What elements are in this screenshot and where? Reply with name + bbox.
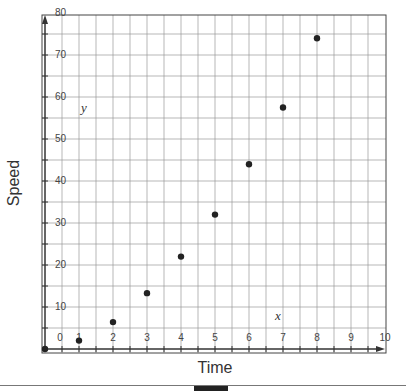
scatter-chart: 0123456789101020304050607080 [0,0,406,391]
data-point [178,253,184,259]
y-tick-label: 40 [55,175,67,186]
x-tick-label: 9 [348,332,354,343]
x-tick-label: 4 [178,332,184,343]
x-tick-label: 5 [212,332,218,343]
data-point [314,35,320,41]
data-point [76,337,82,343]
tick-labels: 0123456789101020304050607080 [55,7,391,343]
y-tick-label: 20 [55,259,67,270]
y-tick-label: 30 [55,217,67,228]
x-tick-label: 3 [144,332,150,343]
y-tick-label: 10 [55,301,67,312]
x-tick-label: 10 [379,332,391,343]
grid-lines [42,15,386,353]
data-point [280,104,286,110]
x-tick-label: 2 [110,332,116,343]
scroll-handle [194,386,228,391]
data-point [246,161,252,167]
y-tick-label: 80 [55,7,67,18]
x-tick-label: 0 [57,332,63,343]
x-tick-label: 8 [314,332,320,343]
data-point [144,290,150,296]
y-tick-label: 70 [55,49,67,60]
x-axis-label: Time [198,359,233,377]
x-tick-label: 7 [280,332,286,343]
y-tick-label: 50 [55,133,67,144]
y-tick-label: 60 [55,91,67,102]
axes [42,15,385,352]
data-point [42,346,48,352]
y-axis-label: Speed [5,160,23,206]
x-tick-label: 6 [246,332,252,343]
plot-frame [42,15,386,353]
data-point [212,211,218,217]
y-variable-label: y [81,100,87,116]
x-variable-label: x [275,308,281,324]
data-point [110,319,116,325]
